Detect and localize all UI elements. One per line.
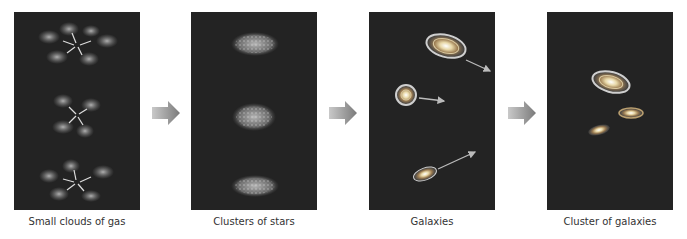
arrow-right-icon [508, 101, 538, 125]
caption-star-clusters: Clusters of stars [174, 216, 334, 227]
gas-clouds-illustration [14, 12, 140, 210]
caption-galaxy-cluster: Cluster of galaxies [530, 216, 687, 227]
star-clusters-illustration [191, 12, 317, 210]
caption-galaxies: Galaxies [352, 216, 512, 227]
panel-galaxies [369, 12, 495, 210]
panel-gas-clouds [14, 12, 140, 210]
panel-galaxy-cluster [547, 12, 673, 210]
galaxy-cluster-illustration [547, 12, 673, 210]
caption-gas-clouds: Small clouds of gas [0, 216, 157, 227]
arrow-right-icon [329, 101, 359, 125]
galaxies-illustration [369, 12, 495, 210]
panel-star-clusters [191, 12, 317, 210]
arrow-right-icon [152, 101, 182, 125]
